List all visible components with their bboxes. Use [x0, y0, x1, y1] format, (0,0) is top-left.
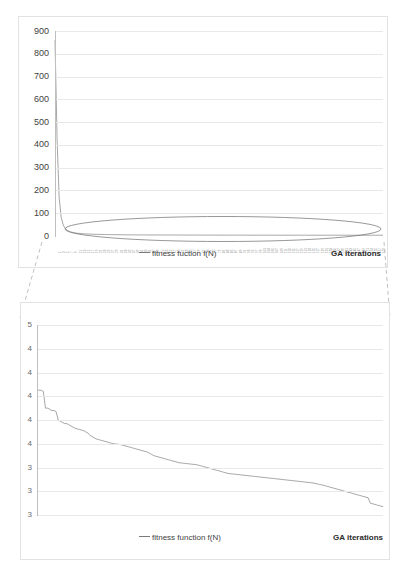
y-tick-label: 4 — [21, 369, 32, 377]
y-tick-label: 4 — [21, 440, 32, 448]
bottom-chart-x-axis-title: GA iterations — [333, 533, 383, 542]
gridline — [55, 190, 383, 191]
gridline — [55, 168, 383, 169]
y-tick-label: 800 — [19, 49, 49, 58]
gridline — [55, 145, 383, 146]
top-chart-series-svg — [55, 31, 383, 236]
bottom-chart-legend: fitness function f(N) — [139, 533, 221, 542]
bottom-chart-plot-area — [37, 325, 383, 515]
y-tick-label: 700 — [19, 72, 49, 81]
gridline — [55, 77, 383, 78]
bottom-chart-legend-label: fitness function f(N) — [152, 533, 221, 542]
y-tick-label: 300 — [19, 163, 49, 172]
y-tick-label: 900 — [19, 27, 49, 36]
legend-line-swatch-icon — [139, 536, 150, 537]
gridline — [55, 54, 383, 55]
y-tick-label: 3 — [21, 511, 32, 519]
bottom-chart-y-axis-line — [37, 325, 38, 516]
gridline — [55, 122, 383, 123]
y-tick-label: 4 — [21, 392, 32, 400]
bottom-chart-series-line — [37, 389, 383, 507]
bottom-chart-panel: 544444333 fitness function f(N) GA itera… — [20, 302, 390, 560]
gridline — [55, 99, 383, 100]
top-chart-plot-area — [55, 31, 383, 236]
y-tick-label: 4 — [21, 345, 32, 353]
y-tick-label: 400 — [19, 140, 49, 149]
page-watermark — [176, 1, 236, 13]
gridline — [37, 491, 383, 492]
y-tick-label: 4 — [21, 416, 32, 424]
y-tick-label: 3 — [21, 464, 32, 472]
gridline — [37, 420, 383, 421]
top-chart-series-line — [55, 40, 383, 235]
gridline — [37, 444, 383, 445]
y-tick-label: 500 — [19, 118, 49, 127]
gridline — [37, 515, 383, 516]
gridline — [37, 396, 383, 397]
gridline — [37, 349, 383, 350]
gridline — [37, 325, 383, 326]
y-tick-label: 600 — [19, 95, 49, 104]
gridline — [55, 31, 383, 32]
gridline — [37, 373, 383, 374]
y-tick-label: 200 — [19, 186, 49, 195]
gridline — [37, 468, 383, 469]
y-tick-label: 100 — [19, 209, 49, 218]
y-tick-label: 5 — [21, 321, 32, 329]
y-tick-label: 3 — [21, 487, 32, 495]
top-chart-y-axis-line — [55, 31, 56, 237]
